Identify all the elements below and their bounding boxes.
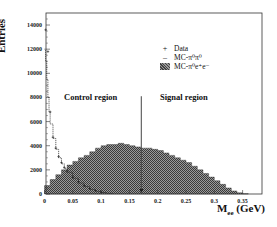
control-region-label: Control region — [64, 92, 117, 102]
data-point — [47, 50, 50, 53]
legend: + Data – MC-π⁰π⁰ MC-π⁰e⁺e⁻ — [160, 44, 210, 71]
data-point — [57, 155, 60, 158]
y-tick-label: 8000 — [30, 94, 42, 100]
signal-region-label: Signal region — [160, 92, 208, 102]
y-tick-label: 6000 — [30, 119, 42, 125]
hatched-swatch-icon — [160, 63, 170, 70]
y-tick-label: 4000 — [30, 143, 42, 149]
y-tick-label: 2000 — [30, 167, 42, 173]
mc-pi0ee-histogram — [45, 143, 249, 194]
legend-label: Data — [174, 44, 188, 53]
x-tick-label: 0 — [43, 198, 46, 204]
y-tick-label: 12000 — [27, 46, 42, 52]
x-tick-label: 0.2 — [154, 198, 162, 204]
y-tick-label: 10000 — [27, 70, 42, 76]
x-tick-label: 0.15 — [124, 198, 135, 204]
x-tick-label: 0.05 — [68, 198, 79, 204]
plus-marker-icon: + — [160, 44, 170, 53]
legend-item-data: + Data — [160, 44, 210, 53]
y-axis-label: Entries — [2, 12, 18, 64]
legend-label: MC-π⁰π⁰ — [174, 53, 202, 62]
x-tick-label: 0.25 — [181, 198, 192, 204]
legend-label: MC-π⁰e⁺e⁻ — [174, 62, 210, 71]
y-tick-label: 14000 — [27, 22, 42, 28]
hatched-bars — [45, 143, 249, 194]
x-axis-label: Mee (GeV) — [217, 202, 265, 217]
line-marker-icon: – — [160, 53, 170, 62]
x-tick-label: 0.1 — [97, 198, 105, 204]
legend-item-mc-pi0ee: MC-π⁰e⁺e⁻ — [160, 62, 210, 71]
histogram-chart: 0200040006000800010000120001400000.050.1… — [0, 0, 277, 227]
legend-item-mc-pi0pi0: – MC-π⁰π⁰ — [160, 53, 210, 62]
y-tick-label: 0 — [39, 191, 42, 197]
